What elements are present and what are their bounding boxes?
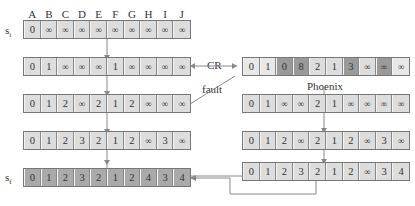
cell: 0: [24, 21, 41, 38]
cell: 3: [74, 169, 91, 186]
cell: ∞: [359, 58, 376, 75]
cell: 0: [24, 95, 41, 112]
cell: ∞: [74, 95, 91, 112]
cell: 1: [107, 132, 124, 149]
cell: 0: [24, 132, 41, 149]
cell: 3: [157, 169, 174, 186]
cell: ∞: [157, 58, 174, 75]
cell: 2: [124, 169, 141, 186]
cell: 1: [326, 132, 343, 149]
cell: 2: [90, 132, 107, 149]
cell: ∞: [57, 21, 74, 38]
cell: ∞: [276, 95, 293, 112]
cell: ∞: [392, 132, 409, 149]
cell: ∞: [376, 95, 393, 112]
cell: 2: [57, 169, 74, 186]
cell: ∞: [74, 58, 91, 75]
cell: 2: [309, 58, 326, 75]
row-cr: 0108213∞∞∞: [242, 57, 410, 76]
cell: ∞: [157, 95, 174, 112]
cell: 1: [326, 95, 343, 112]
cell: 0: [276, 58, 293, 75]
cell: 1: [107, 95, 124, 112]
cell: 2: [90, 169, 107, 186]
cell: 1: [260, 95, 277, 112]
cell: 0: [243, 132, 260, 149]
cell: ∞: [376, 58, 393, 75]
cell: ∞: [392, 95, 409, 112]
cell: ∞: [359, 132, 376, 149]
row-left-4: 0123212∞3∞: [23, 131, 191, 150]
cell: ∞: [41, 21, 58, 38]
cell: ∞: [57, 58, 74, 75]
cell: ∞: [359, 163, 376, 180]
row-left-2: 01∞∞∞1∞∞∞∞: [23, 57, 191, 76]
cell: 8: [293, 58, 310, 75]
cell: 2: [309, 95, 326, 112]
cell: 1: [260, 132, 277, 149]
cell: ∞: [74, 21, 91, 38]
cell: 4: [173, 169, 190, 186]
cell: 0: [243, 95, 260, 112]
cell: 3: [376, 163, 393, 180]
cell: ∞: [157, 21, 174, 38]
cell: 2: [57, 132, 74, 149]
cell: ∞: [173, 21, 190, 38]
cell: ∞: [173, 95, 190, 112]
cell: ∞: [140, 95, 157, 112]
row-phoenix-1: 01∞∞21∞∞∞∞: [242, 94, 410, 113]
cell: 3: [343, 58, 360, 75]
cell: ∞: [90, 58, 107, 75]
cell: ∞: [173, 58, 190, 75]
cell: ∞: [90, 21, 107, 38]
cell: 1: [260, 58, 277, 75]
cell: 2: [276, 132, 293, 149]
cell: 0: [243, 58, 260, 75]
cell: 1: [41, 58, 58, 75]
row-phoenix-3: 0123212∞34: [242, 162, 410, 181]
cell: 4: [392, 163, 409, 180]
cell: ∞: [392, 58, 409, 75]
cell: 1: [41, 132, 58, 149]
cell: 3: [74, 132, 91, 149]
cell: ∞: [124, 21, 141, 38]
row-left-3: 012∞212∞∞∞: [23, 94, 191, 113]
cell: ∞: [173, 132, 190, 149]
cell: ∞: [343, 95, 360, 112]
cell: 2: [124, 132, 141, 149]
cell: 0: [24, 58, 41, 75]
cell: 3: [157, 132, 174, 149]
cell: ∞: [140, 58, 157, 75]
cell: 1: [326, 58, 343, 75]
cell: 1: [41, 95, 58, 112]
cell: 1: [41, 169, 58, 186]
cell: 3: [293, 163, 310, 180]
cell: ∞: [293, 95, 310, 112]
cell: ∞: [140, 132, 157, 149]
cell: 3: [376, 132, 393, 149]
cell: ∞: [107, 21, 124, 38]
cell: 1: [260, 163, 277, 180]
cell: 2: [90, 95, 107, 112]
cell: ∞: [124, 58, 141, 75]
cell: 2: [309, 132, 326, 149]
cell: ∞: [359, 95, 376, 112]
cell: ∞: [140, 21, 157, 38]
cell: 2: [309, 163, 326, 180]
cell: 2: [343, 163, 360, 180]
row-phoenix-2: 012∞212∞3∞: [242, 131, 410, 150]
cell: 0: [24, 169, 41, 186]
cell: 1: [326, 163, 343, 180]
row-sf: 0123212434: [23, 168, 191, 187]
cell: 0: [243, 163, 260, 180]
cell: 2: [124, 95, 141, 112]
cell: 2: [276, 163, 293, 180]
cell: 2: [57, 95, 74, 112]
cell: 2: [343, 132, 360, 149]
cell: ∞: [293, 132, 310, 149]
cell: 1: [107, 58, 124, 75]
cell: 1: [107, 169, 124, 186]
cell: 4: [140, 169, 157, 186]
row-si: 0∞∞∞∞∞∞∞∞∞: [23, 20, 191, 39]
